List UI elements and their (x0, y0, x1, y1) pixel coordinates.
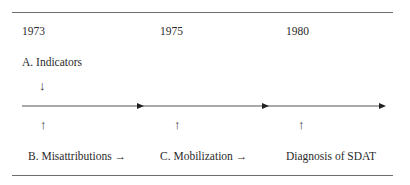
bottom-rule (12, 175, 393, 176)
timeline-arrowhead-end-icon (379, 103, 386, 109)
timeline-arrowhead-1-icon (137, 103, 144, 109)
timeline-arrowhead-2-icon (262, 103, 269, 109)
mobilization-label: C. Mobilization → (160, 149, 247, 163)
misattributions-label: B. Misattributions → (28, 149, 126, 163)
diagnosis-label: Diagnosis of SDAT (286, 149, 376, 163)
up-arrow-icon-b: ↑ (40, 118, 47, 132)
up-arrow-icon-diagnosis: ↑ (298, 118, 305, 132)
up-arrow-icon-c: ↑ (174, 118, 181, 132)
